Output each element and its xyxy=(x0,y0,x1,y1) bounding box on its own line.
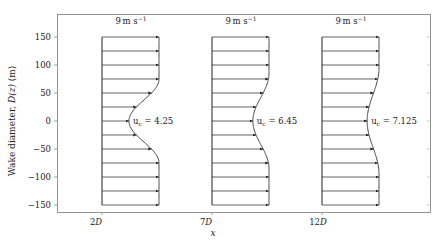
x-tick-label: 2D xyxy=(90,217,102,227)
free-stream-label: 9 m s−1 xyxy=(335,15,366,26)
y-tick-label: 100 xyxy=(35,60,51,70)
profile-2D: 9 m s−1uc = 4.25 xyxy=(102,15,173,205)
centerline-velocity-label: uc = 6.45 xyxy=(257,116,297,127)
x-tick-label: 7D xyxy=(200,217,212,227)
y-tick-label: 0 xyxy=(46,116,51,126)
y-axis-label: Wake diameter, D(z) (m) xyxy=(7,66,17,177)
y-tick-label: −150 xyxy=(28,200,51,210)
x-axis-ticks: 2D7D12D xyxy=(90,213,327,228)
y-tick-label: 50 xyxy=(40,88,51,98)
y-tick-label: −50 xyxy=(33,144,51,154)
free-stream-label: 9 m s−1 xyxy=(225,15,256,26)
y-tick-label: −100 xyxy=(28,172,51,182)
centerline-velocity-label: uc = 7.125 xyxy=(371,116,417,127)
velocity-profiles: 9 m s−1uc = 4.259 m s−1uc = 6.459 m s−1u… xyxy=(102,15,417,205)
profile-12D: 9 m s−1uc = 7.125 xyxy=(322,15,417,205)
x-tick-label: 12D xyxy=(309,217,327,227)
plot-area-frame xyxy=(58,15,431,213)
profile-7D: 9 m s−1uc = 6.45 xyxy=(212,15,297,205)
centerline-velocity-label: uc = 4.25 xyxy=(133,116,173,127)
x-axis-label: x xyxy=(210,228,215,238)
y-tick-label: 150 xyxy=(35,32,51,42)
free-stream-label: 9 m s−1 xyxy=(115,15,146,26)
wake-profile-chart: 150100500−50−100−150 Wake diameter, D(z)… xyxy=(0,0,441,245)
